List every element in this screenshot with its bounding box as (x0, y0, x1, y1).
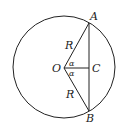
label-b: B (85, 112, 94, 125)
label-r-top: R (64, 39, 73, 52)
label-alpha-top: α (69, 59, 75, 68)
label-a: A (89, 10, 98, 23)
circle-diagram: A B C O R R α α (0, 0, 123, 134)
label-c: C (92, 62, 101, 75)
label-o: O (52, 62, 61, 75)
label-alpha-bottom: α (69, 69, 75, 78)
label-r-bottom: R (65, 88, 74, 101)
